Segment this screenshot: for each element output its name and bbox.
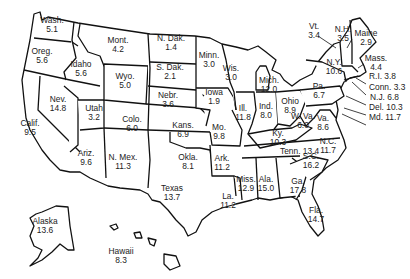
state-value: 14.7 — [308, 215, 324, 224]
state-label-n-y: N.Y.10.6 — [326, 58, 342, 76]
state-label-ala: Ala.15.0 — [258, 175, 274, 193]
state-value: 10.3 — [384, 102, 403, 112]
state-label-hawaii: Hawaii8.3 — [108, 247, 133, 265]
state-label-nebr: Nebr.3.6 — [158, 91, 178, 109]
state-value: 3.3 — [391, 82, 405, 92]
state-name: Tenn. — [280, 146, 301, 156]
state-value: 11.3 — [109, 162, 138, 171]
state-name: R.I. — [369, 71, 382, 81]
state-label-ind: Ind.8.0 — [259, 102, 273, 120]
state-value: 2.1 — [156, 72, 183, 81]
state-label-maine: Maine2.9 — [355, 29, 378, 47]
state-label-kans: Kans.6.9 — [172, 121, 193, 139]
state-value: 6.0 — [122, 124, 142, 133]
state-value: 3.5 — [335, 34, 352, 43]
state-value: 5.6 — [71, 69, 92, 78]
state-value: 6.0 — [291, 121, 315, 130]
state-label-w-va: W. Va.6.0 — [291, 112, 315, 130]
state-value: 6.8 — [385, 92, 399, 102]
state-label-ill: Ill.11.8 — [235, 104, 251, 122]
state-label-mass: Mass.4.4 — [365, 54, 387, 72]
state-label-mich: Mich.12.0 — [259, 76, 279, 94]
state-label-wash: Wash.5.1 — [40, 16, 63, 34]
state-label-pa: Pa.6.7 — [313, 82, 326, 100]
state-label-n-mex: N. Mex.11.3 — [109, 153, 138, 171]
state-value: 3.8 — [382, 71, 396, 81]
state-value: 8.3 — [108, 256, 133, 265]
state-label-n-h: N.H.3.5 — [335, 25, 352, 43]
state-value: 3.6 — [158, 100, 178, 109]
state-value: 5.0 — [115, 81, 134, 90]
state-label-fla: Fla.14.7 — [308, 206, 324, 224]
hawaii-island — [134, 232, 142, 238]
state-value: 3.0 — [199, 60, 219, 69]
state-label-ark: Ark.11.2 — [214, 154, 230, 172]
state-value: 3.2 — [85, 113, 103, 122]
state-value: 13.6 — [32, 226, 57, 235]
state-value: 8.0 — [259, 111, 273, 120]
state-value: 4.2 — [108, 45, 129, 54]
state-label-n-j: N.J. 6.8 — [370, 93, 399, 102]
hawaii-island — [164, 254, 180, 270]
state-value: 11.7 — [320, 146, 337, 155]
state-value: 1.4 — [157, 43, 185, 52]
hawaii-island — [148, 238, 156, 246]
state-label-okla: Okla.8.1 — [178, 153, 198, 171]
state-value: 9.6 — [78, 158, 95, 167]
state-label-calif: Calif.9.5 — [20, 119, 39, 137]
state-label-mo: Mo.9.8 — [212, 123, 226, 141]
state-label-s-c: S.C.16.2 — [303, 152, 319, 170]
state-label-va: Va.8.6 — [317, 114, 329, 132]
state-value: 8.1 — [178, 162, 198, 171]
state-value: 5.1 — [40, 25, 63, 34]
state-value: 17.8 — [290, 186, 306, 195]
state-value: 3.4 — [308, 31, 320, 40]
state-name: Conn. — [369, 82, 391, 92]
state-value: 15.0 — [258, 184, 274, 193]
state-label-md: Md. 11.7 — [369, 113, 401, 122]
state-label-texas: Texas13.7 — [161, 184, 183, 202]
state-label-alaska: Alaska13.6 — [32, 217, 57, 235]
state-value: 5.6 — [32, 56, 53, 65]
state-value: 11.2 — [220, 201, 236, 210]
state-label-ky: Ky.10.3 — [270, 129, 286, 147]
state-label-r-i: R.I. 3.8 — [369, 72, 396, 81]
state-label-colo: Colo.6.0 — [122, 115, 142, 133]
state-value: 6.9 — [172, 130, 193, 139]
state-label-mont: Mont.4.2 — [108, 36, 129, 54]
state-label-n-c: N.C.11.7 — [320, 137, 337, 155]
state-label-del: Del. 10.3 — [369, 103, 403, 112]
state-label-wyo: Wyo.5.0 — [115, 72, 134, 90]
state-value: 13.7 — [161, 193, 183, 202]
alaska-outline — [30, 206, 74, 266]
state-name: Md. — [369, 112, 383, 122]
state-value: 14.8 — [50, 104, 67, 113]
state-label-conn: Conn. 3.3 — [369, 83, 405, 92]
state-label-minn: Minn.3.0 — [199, 51, 219, 69]
state-label-n-dak: N. Dak.1.4 — [157, 34, 185, 52]
state-value: 6.7 — [313, 91, 326, 100]
state-value: 8.6 — [317, 123, 329, 132]
state-label-ariz: Ariz.9.6 — [78, 149, 95, 167]
state-label-iowa: Iowa1.9 — [205, 88, 223, 106]
state-value: 12.9 — [236, 184, 256, 193]
state-value: 1.9 — [205, 97, 223, 106]
state-value: 9.8 — [212, 132, 226, 141]
state-value: 11.7 — [383, 112, 401, 122]
state-value: 12.0 — [259, 85, 279, 94]
state-value: 2.9 — [355, 38, 378, 47]
state-name: Del. — [369, 102, 384, 112]
state-label-vt: Vt.3.4 — [308, 22, 320, 40]
state-value: 10.6 — [326, 67, 342, 76]
state-label-ga: Ga.17.8 — [290, 177, 306, 195]
state-label-idaho: Idaho5.6 — [71, 60, 92, 78]
hawaii-island — [110, 224, 118, 230]
state-value: 11.8 — [235, 113, 251, 122]
state-value: 3.0 — [223, 73, 239, 82]
state-name: N.J. — [370, 92, 385, 102]
state-label-utah: Utah3.2 — [85, 104, 103, 122]
state-label-oreg: Oreg.5.6 — [32, 47, 53, 65]
state-value: 9.5 — [20, 128, 39, 137]
state-label-miss: Miss.12.9 — [236, 175, 256, 193]
state-value: 16.2 — [303, 161, 319, 170]
